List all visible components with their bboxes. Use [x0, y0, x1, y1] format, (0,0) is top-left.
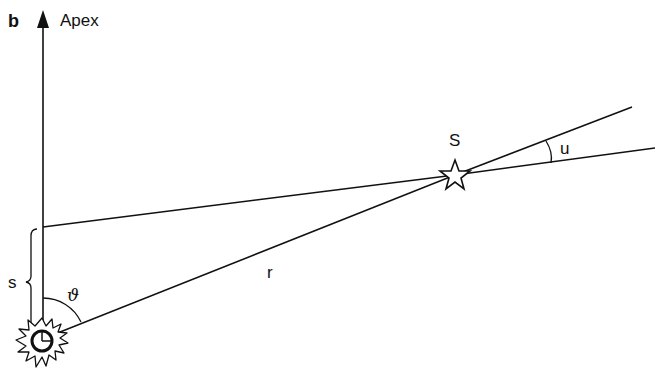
star-label: S — [449, 132, 460, 149]
angle-u-arc — [546, 141, 551, 163]
line-extension-upper — [455, 107, 632, 175]
angle-u-label: u — [560, 140, 569, 157]
line-r — [50, 175, 455, 336]
panel-label: b — [8, 12, 19, 30]
distance-label: r — [267, 264, 273, 281]
sun-icon — [16, 318, 68, 367]
apex-label: Apex — [60, 12, 99, 29]
diagram-canvas — [0, 0, 655, 387]
star-icon — [440, 160, 470, 189]
displacement-label: s — [8, 274, 17, 291]
arrow-up-icon — [37, 10, 49, 28]
angle-theta-label: ϑ — [67, 287, 79, 304]
brace-s — [26, 229, 37, 328]
apex-axis — [37, 10, 49, 330]
line-extension-lower — [455, 148, 655, 175]
line-displaced-to-star — [43, 175, 455, 227]
